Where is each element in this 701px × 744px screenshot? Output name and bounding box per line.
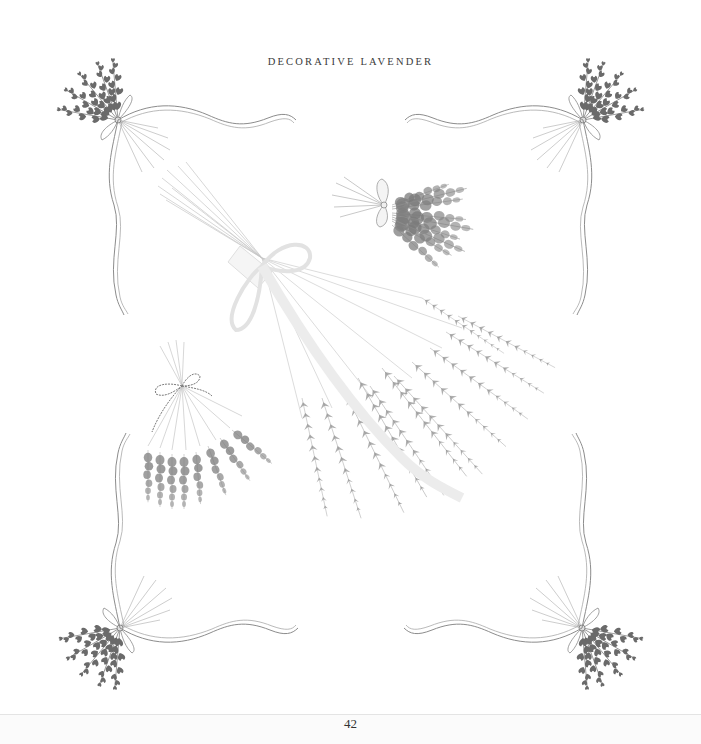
lavender-illustration [0,0,701,744]
small-bundle-twine [143,340,275,509]
page-number: 42 [0,716,701,732]
book-page: DECORATIVE LAVENDER [0,0,701,744]
small-bundle-bow [332,177,475,272]
corner-sprig-bottom-left [57,433,298,691]
corner-sprig-bottom-right [404,433,645,691]
large-bundle [158,162,557,520]
